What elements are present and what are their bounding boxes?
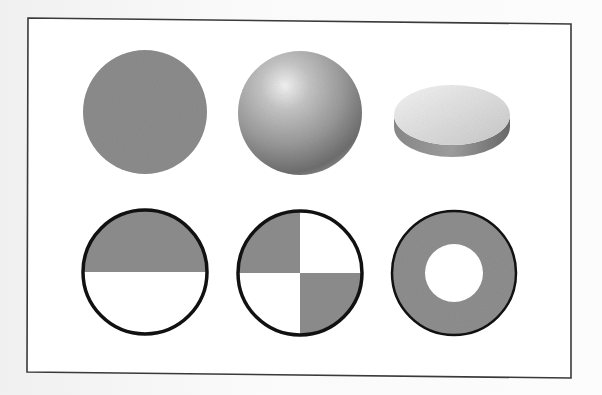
flat-disc <box>394 85 510 157</box>
flat-circle <box>83 50 207 174</box>
shaded-sphere <box>238 51 362 175</box>
half-filled-circle <box>83 210 207 334</box>
shapes-diagram <box>0 0 602 395</box>
figure-page <box>0 0 602 395</box>
quartered-circle <box>238 211 362 335</box>
